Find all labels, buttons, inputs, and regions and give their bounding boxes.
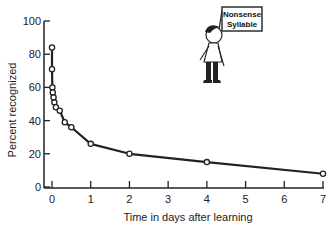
forgetting-curve-chart: 020406080100 01234567 Percent recognized… (0, 0, 336, 231)
cartoon-boy-with-sign: Nonsense Syllable (200, 7, 262, 83)
data-point-marker (50, 90, 55, 95)
data-point-marker (57, 108, 62, 113)
y-axis: 020406080100 (23, 15, 50, 193)
x-tick-label: 3 (165, 193, 171, 205)
x-tick-label: 4 (204, 193, 210, 205)
y-tick-label: 60 (29, 81, 41, 93)
sign-text-line1: Nonsense (223, 10, 262, 19)
x-tick-label: 2 (126, 193, 132, 205)
data-markers (49, 45, 325, 176)
retention-line (52, 48, 323, 174)
sign-text-line2: Syllable (227, 20, 258, 29)
x-tick-label: 1 (88, 193, 94, 205)
y-tick-label: 20 (29, 148, 41, 160)
data-point-marker (69, 125, 74, 130)
y-tick-label: 100 (23, 15, 41, 27)
y-axis-title: Percent recognized (6, 63, 18, 158)
x-tick-label: 6 (281, 193, 287, 205)
data-point-marker (320, 171, 325, 176)
y-tick-label: 40 (29, 115, 41, 127)
x-axis: 01234567 (44, 181, 326, 205)
data-point-marker (49, 45, 54, 50)
data-point-marker (88, 141, 93, 146)
data-series (49, 45, 325, 176)
y-tick-label: 0 (35, 181, 41, 193)
data-point-marker (127, 151, 132, 156)
x-tick-label: 7 (320, 193, 326, 205)
data-point-marker (49, 67, 54, 72)
x-axis-title: Time in days after learning (123, 211, 252, 223)
data-point-marker (62, 120, 67, 125)
y-tick-label: 80 (29, 48, 41, 60)
x-tick-label: 0 (49, 193, 55, 205)
data-point-marker (51, 95, 56, 100)
data-point-marker (204, 160, 209, 165)
x-tick-label: 5 (243, 193, 249, 205)
